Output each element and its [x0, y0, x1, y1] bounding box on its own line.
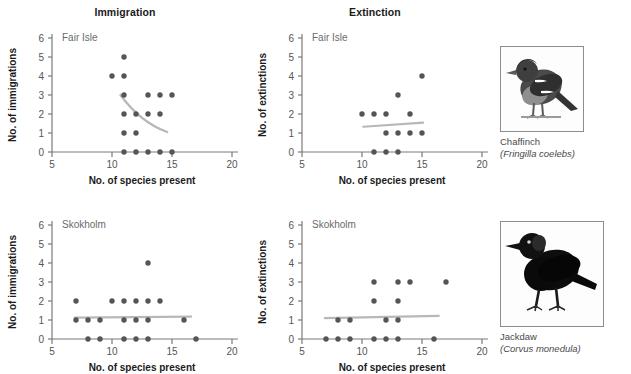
data-point: [133, 149, 138, 154]
x-axis-title: No. of species present: [89, 175, 196, 186]
data-point: [395, 336, 400, 341]
plot-area-extinction-skokholm: 01234565101520SkokholmNo. of extinctions…: [250, 187, 500, 374]
x-tick-label: 20: [226, 346, 238, 357]
panel-subtitle-island: Skokholm: [62, 219, 106, 230]
data-point: [371, 298, 376, 303]
data-point: [443, 279, 448, 284]
data-point: [145, 149, 150, 154]
data-point: [323, 336, 328, 341]
plot-area-immigration-fair-isle: 01234565101520Fair IsleNo. of immigratio…: [0, 0, 250, 187]
y-tick-label: 3: [288, 277, 294, 288]
data-point: [407, 130, 412, 135]
jackdaw-caption: Jackdaw (Corvus monedula): [500, 331, 581, 355]
y-tick-label: 0: [38, 334, 44, 345]
data-point: [109, 73, 114, 78]
scatter-svg-immigration-fair-isle: 01234565101520Fair IsleNo. of immigratio…: [0, 0, 250, 187]
x-tick-label: 10: [356, 159, 368, 170]
data-point: [157, 111, 162, 116]
data-point: [121, 54, 126, 59]
y-tick-label: 2: [38, 296, 44, 307]
y-tick-label: 1: [288, 128, 294, 139]
bird-card-jackdaw: Jackdaw (Corvus monedula): [500, 221, 631, 361]
data-point: [371, 279, 376, 284]
data-point: [335, 317, 340, 322]
data-point: [145, 317, 150, 322]
y-tick-label: 5: [38, 52, 44, 63]
data-point: [145, 336, 150, 341]
y-tick-label: 0: [288, 334, 294, 345]
x-tick-label: 5: [49, 159, 55, 170]
data-point: [371, 149, 376, 154]
data-point: [371, 336, 376, 341]
data-point: [395, 317, 400, 322]
data-point: [395, 298, 400, 303]
x-axis-title: No. of species present: [339, 362, 446, 373]
data-point: [359, 111, 364, 116]
data-point: [121, 298, 126, 303]
data-point: [121, 111, 126, 116]
x-axis-title: No. of species present: [89, 362, 196, 373]
y-tick-label: 1: [38, 315, 44, 326]
x-tick-label: 15: [416, 346, 428, 357]
x-axis-title: No. of species present: [339, 175, 446, 186]
jackdaw-photo-frame: [500, 221, 604, 327]
y-axis-title: No. of immigrations: [7, 48, 18, 142]
data-point: [145, 92, 150, 97]
data-point: [97, 336, 102, 341]
y-tick-label: 4: [38, 71, 44, 82]
data-point: [383, 336, 388, 341]
y-tick-label: 6: [288, 220, 294, 231]
panel-extinction-skokholm: 01234565101520SkokholmNo. of extinctions…: [250, 187, 500, 374]
y-tick-label: 5: [288, 239, 294, 250]
y-tick-label: 1: [288, 315, 294, 326]
y-tick-label: 2: [288, 109, 294, 120]
data-point: [407, 111, 412, 116]
data-point: [419, 130, 424, 135]
trend-line: [75, 317, 191, 318]
x-tick-label: 10: [106, 159, 118, 170]
data-point: [133, 298, 138, 303]
y-tick-label: 3: [288, 90, 294, 101]
y-tick-label: 0: [288, 147, 294, 158]
y-tick-label: 2: [38, 109, 44, 120]
jackdaw-scientific-name: (Corvus monedula): [500, 343, 581, 355]
data-point: [157, 298, 162, 303]
data-point: [407, 279, 412, 284]
scatter-svg-immigration-skokholm: 01234565101520SkokholmNo. of immigration…: [0, 187, 250, 374]
scatter-svg-extinction-skokholm: 01234565101520SkokholmNo. of extinctions…: [250, 187, 500, 374]
data-point: [157, 149, 162, 154]
y-tick-label: 6: [38, 33, 44, 44]
x-tick-label: 20: [476, 346, 488, 357]
x-tick-label: 20: [226, 159, 238, 170]
data-point: [371, 111, 376, 116]
data-point: [383, 111, 388, 116]
scatter-svg-extinction-fair-isle: 01234565101520Fair IsleNo. of extinction…: [250, 0, 500, 187]
data-point: [133, 130, 138, 135]
trend-line: [325, 316, 439, 318]
jackdaw-photo: [501, 222, 603, 326]
data-point: [121, 73, 126, 78]
y-axis-title: No. of extinctions: [257, 240, 268, 324]
chaffinch-photo-frame: [500, 46, 584, 132]
x-tick-label: 5: [299, 346, 305, 357]
figure-root: Immigration 01234565101520Fair IsleNo. o…: [0, 0, 631, 374]
chaffinch-photo: [501, 47, 583, 131]
x-tick-label: 15: [416, 159, 428, 170]
x-tick-label: 5: [299, 159, 305, 170]
trend-line: [363, 123, 423, 127]
data-point: [121, 336, 126, 341]
data-point: [133, 317, 138, 322]
y-tick-label: 2: [288, 296, 294, 307]
data-point: [383, 149, 388, 154]
y-tick-label: 1: [38, 128, 44, 139]
data-point: [145, 298, 150, 303]
y-tick-label: 6: [38, 220, 44, 231]
chaffinch-common-name: Chaffinch: [500, 136, 575, 148]
x-tick-label: 15: [166, 346, 178, 357]
data-point: [157, 92, 162, 97]
data-point: [109, 298, 114, 303]
y-tick-label: 5: [288, 52, 294, 63]
data-point: [121, 92, 126, 97]
y-tick-label: 3: [38, 90, 44, 101]
data-point: [133, 111, 138, 116]
